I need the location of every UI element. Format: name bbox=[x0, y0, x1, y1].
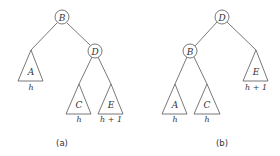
subtree-c-label: C bbox=[204, 100, 211, 110]
edge-b-a bbox=[31, 23, 57, 50]
subtree-c-height: h bbox=[204, 115, 209, 124]
tree-rotation-diagram: B D A h C h E h + 1 (a) D B E h + 1 A h … bbox=[0, 0, 280, 156]
subtree-e-label: E bbox=[252, 67, 260, 77]
panel-b: D B E h + 1 A h C h (b) bbox=[162, 10, 268, 148]
node-d-label: D bbox=[217, 13, 225, 23]
subtree-e-label: E bbox=[107, 100, 115, 110]
subtree-c-label: C bbox=[76, 100, 83, 110]
node-d-label: D bbox=[90, 47, 98, 57]
node-b-label: B bbox=[186, 47, 194, 57]
edge-b-c bbox=[194, 57, 207, 84]
edge-d-e bbox=[98, 57, 111, 84]
caption-b: (b) bbox=[216, 138, 228, 148]
subtree-a-label: A bbox=[171, 100, 179, 110]
subtree-a-height: h bbox=[28, 83, 33, 92]
edge-b-a bbox=[175, 57, 187, 84]
edge-d-e bbox=[227, 22, 256, 50]
subtree-e-height: h + 1 bbox=[245, 83, 267, 92]
subtree-a-height: h bbox=[172, 115, 177, 124]
subtree-c-height: h bbox=[76, 115, 81, 124]
caption-a: (a) bbox=[56, 138, 68, 148]
edge-b-d bbox=[67, 23, 90, 45]
panel-a: B D A h C h E h + 1 (a) bbox=[18, 10, 123, 148]
edge-d-c bbox=[79, 57, 92, 84]
node-b-label: B bbox=[58, 13, 66, 23]
subtree-e-height: h + 1 bbox=[100, 115, 122, 124]
edge-d-b bbox=[195, 22, 217, 46]
subtree-a-label: A bbox=[27, 67, 35, 77]
